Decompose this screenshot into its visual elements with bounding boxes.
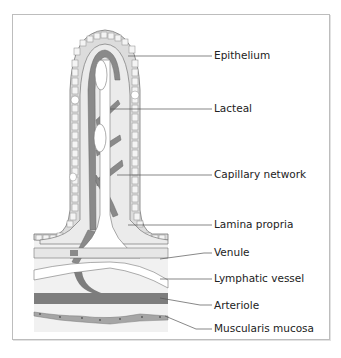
label-venule: Venule — [214, 246, 250, 258]
arteriole — [34, 293, 168, 304]
label-lacteal: Lacteal — [214, 102, 252, 114]
label-lamina-propria: Lamina propria — [214, 218, 293, 230]
villus-diagram: Epithelium Lacteal Capillary network Lam… — [0, 0, 341, 358]
venule — [34, 248, 168, 258]
lacteal-lobe — [95, 60, 107, 90]
label-capillary-network: Capillary network — [214, 168, 306, 180]
label-muscularis-mucosa: Muscularis mucosa — [214, 322, 314, 334]
label-arteriole: Arteriole — [214, 299, 259, 311]
label-epithelium: Epithelium — [214, 49, 270, 61]
label-lymphatic-vessel: Lymphatic vessel — [214, 272, 304, 284]
